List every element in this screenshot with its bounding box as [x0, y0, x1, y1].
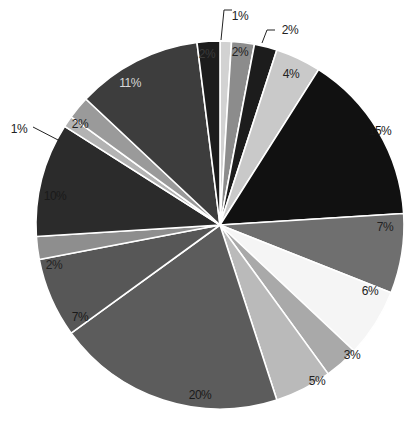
slice-label: 7% — [72, 310, 89, 324]
slice-label: 2% — [199, 47, 216, 61]
slice-label: 11% — [119, 76, 141, 90]
slice-label: 3% — [344, 348, 361, 362]
slice-label: 4% — [283, 67, 300, 81]
slice-label: 2% — [232, 45, 249, 59]
slice-label: 6% — [362, 284, 379, 298]
slice-label: 1% — [232, 9, 249, 23]
callout-line — [33, 127, 60, 141]
slice-label: 2% — [282, 23, 299, 37]
slice-label: 15% — [369, 124, 392, 138]
slice-label: 2% — [46, 258, 63, 272]
callout-line — [221, 10, 232, 40]
slice-label: 1% — [11, 122, 28, 136]
slice-label: 7% — [377, 220, 394, 234]
pie-chart: 1%2%2%4%15%7%6%3%5%20%7%2%10%1%2%11%2% — [0, 0, 413, 421]
slice-label: 2% — [72, 117, 89, 131]
slice-label: 10% — [44, 189, 67, 203]
slice-label: 20% — [189, 388, 212, 402]
slice-label: 5% — [309, 374, 326, 388]
callout-line — [262, 30, 275, 43]
